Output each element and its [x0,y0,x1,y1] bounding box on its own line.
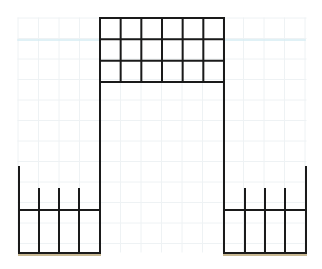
tower-drawing [0,0,322,269]
diagram-canvas [0,0,322,269]
right-base-fence [224,167,306,253]
